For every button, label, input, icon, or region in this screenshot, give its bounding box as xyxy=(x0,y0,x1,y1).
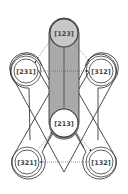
node-213[interactable]: [213] xyxy=(50,109,78,139)
node-label: [213] xyxy=(54,120,74,128)
node-312[interactable]: [312] xyxy=(86,56,116,86)
node-label: [123] xyxy=(54,30,74,38)
node-231[interactable]: [231] xyxy=(11,56,41,86)
node-321[interactable]: [321] xyxy=(12,147,42,177)
node-123[interactable]: [123] xyxy=(50,19,78,47)
node-label: [321] xyxy=(17,159,37,167)
node-label: [312] xyxy=(91,68,111,76)
permutation-graph: [123] [231] [312] [213] [321] [132] xyxy=(0,0,128,194)
node-label: [132] xyxy=(91,159,111,167)
node-132[interactable]: [132] xyxy=(86,147,116,177)
node-label: [231] xyxy=(16,68,36,76)
